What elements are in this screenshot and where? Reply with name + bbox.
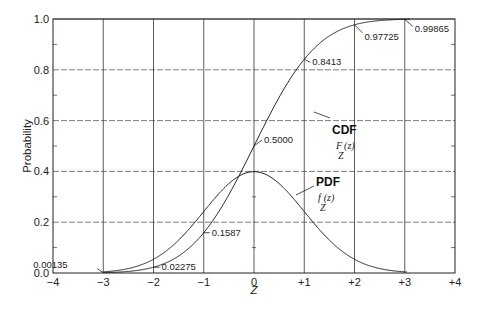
y-tick-label: 0.6	[34, 115, 49, 127]
value-annotation: 0.99865	[415, 23, 449, 34]
cdf-function-subscript: Z	[338, 150, 344, 161]
value-annotation: 0.1587	[212, 227, 241, 238]
x-tick-label: +4	[449, 276, 462, 288]
pdf-curve	[103, 172, 407, 272]
x-tick-label: −2	[147, 276, 160, 288]
value-annotation: 0.5000	[264, 134, 293, 145]
y-tick-label: 0.8	[34, 64, 49, 76]
value-annotation: 0.8413	[312, 56, 341, 67]
pdf-label: PDF	[316, 175, 340, 189]
x-tick-label: +2	[348, 276, 361, 288]
normal-distribution-chart: −4−3−2−10+1+2+3+40.00.20.40.60.81.0 0.00…	[0, 0, 480, 310]
value-annotation: 0.00135	[33, 259, 67, 270]
cdf-legend: CDF F(z) Z	[314, 112, 357, 161]
y-axis-label: Probability	[21, 119, 33, 173]
pdf-function-subscript: Z	[320, 202, 326, 213]
value-annotation: 0.02275	[162, 261, 196, 272]
value-annotations: 0.001350.022750.15870.50000.84130.977250…	[33, 19, 449, 272]
x-tick-label: −3	[97, 276, 110, 288]
y-tick-label: 0.4	[34, 165, 49, 177]
pdf-legend: PDF f(z) Z	[296, 175, 340, 213]
cdf-curve	[103, 19, 410, 272]
x-tick-label: −1	[197, 276, 210, 288]
tick-labels: −4−3−2−10+1+2+3+40.00.20.40.60.81.0	[34, 13, 462, 288]
x-axis-label: Z	[249, 284, 258, 296]
x-tick-label: +1	[298, 276, 311, 288]
x-tick-label: +3	[398, 276, 411, 288]
y-tick-label: 1.0	[34, 13, 49, 25]
value-annotation: 0.97725	[365, 31, 399, 42]
y-tick-label: 0.2	[34, 216, 49, 228]
cdf-label: CDF	[332, 123, 357, 137]
